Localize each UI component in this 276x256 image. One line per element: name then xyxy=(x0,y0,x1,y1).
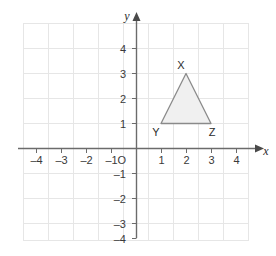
x-tick-label-4: 4 xyxy=(233,154,239,166)
y-tick-label-3: 3 xyxy=(120,68,126,80)
vertex-label-z: Z xyxy=(209,126,216,138)
origin-label: O xyxy=(117,154,126,166)
x-tick-label-1: 1 xyxy=(158,154,164,166)
x-tick-label--2: –2 xyxy=(80,154,92,166)
x-tick-label-2: 2 xyxy=(183,154,189,166)
coordinate-plane-figure: –4 –3 –2 –1 1 2 3 4 4 3 2 1 –1 –2 –3 –4 … xyxy=(0,0,276,256)
y-tick-label--2: –2 xyxy=(114,193,126,205)
y-axis-name-label: y xyxy=(123,9,130,23)
y-tick-label-4: 4 xyxy=(120,43,126,55)
coordinate-plane-svg: –4 –3 –2 –1 1 2 3 4 4 3 2 1 –1 –2 –3 –4 … xyxy=(0,0,276,256)
x-tick-label--4: –4 xyxy=(30,154,42,166)
vertex-label-x: X xyxy=(177,59,185,71)
y-tick-label-1: 1 xyxy=(120,118,126,130)
y-tick-label--1: –1 xyxy=(114,168,126,180)
x-axis-name-label: x xyxy=(262,144,269,158)
y-tick-label--3: –3 xyxy=(114,218,126,230)
x-tick-label-3: 3 xyxy=(208,154,214,166)
vertex-label-y: Y xyxy=(152,126,160,138)
y-tick-label-2: 2 xyxy=(120,93,126,105)
x-tick-label--3: –3 xyxy=(55,154,67,166)
y-tick-label--4: –4 xyxy=(114,233,126,245)
figure-background xyxy=(0,0,276,256)
x-tick-label--1: –1 xyxy=(105,154,117,166)
